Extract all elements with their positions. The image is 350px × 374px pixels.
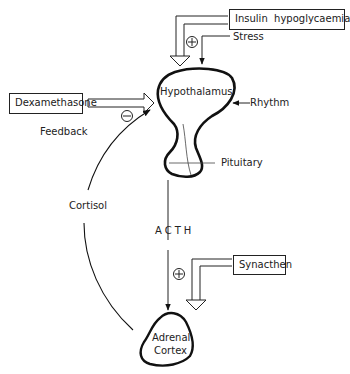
insulin-hypoglycaemia-box: Insulin hypoglycaemia <box>229 9 345 30</box>
feedback-label: Feedback <box>40 126 88 138</box>
minus-sign-icon <box>122 111 133 122</box>
cortisol-label: Cortisol <box>69 200 107 212</box>
insulin-label: Insulin hypoglycaemia <box>235 13 350 24</box>
adrenal-label: Adrenal <box>152 332 190 344</box>
acth-label: ACTH <box>155 225 194 237</box>
stress-arrow <box>187 36 231 64</box>
hypothalamus-label: Hypothalamus <box>160 86 233 98</box>
synacthen-hollow-arrow <box>186 259 232 310</box>
rhythm-label: Rhythm <box>250 97 289 109</box>
stress-label: Stress <box>233 31 264 43</box>
pituitary-label: Pituitary <box>221 157 263 169</box>
dexamethasone-label: Dexamethasone <box>15 97 97 108</box>
synacthen-label: Synacthen <box>239 259 292 270</box>
synacthen-box: Synacthen <box>233 255 286 275</box>
dexamethasone-box: Dexamethasone <box>9 93 83 114</box>
insulin-hollow-arrow <box>170 16 228 66</box>
synacthen-plus-sign <box>174 269 185 280</box>
dexamethasone-hollow-arrow <box>88 93 154 113</box>
cortisol-feedback-curve <box>84 110 150 330</box>
cortex-label: Cortex <box>154 345 187 357</box>
